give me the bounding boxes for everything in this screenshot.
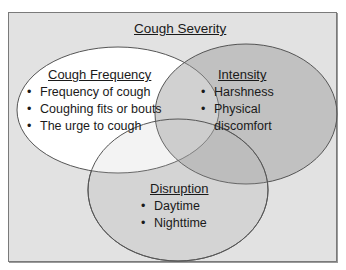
- frequency-item: Frequency of cough: [26, 84, 162, 101]
- intensity-title: Intensity: [218, 66, 274, 83]
- disruption-label: Disruption Daytime Nighttime: [140, 180, 209, 232]
- frequency-item: The urge to cough: [26, 118, 162, 135]
- intensity-item: Physical discomfort: [200, 101, 274, 135]
- frequency-label: Cough Frequency Frequency of cough Cough…: [26, 66, 162, 135]
- intensity-label: Intensity Harshness Physical discomfort: [200, 66, 274, 135]
- diagram-title: Cough Severity: [134, 20, 226, 37]
- disruption-title: Disruption: [150, 180, 209, 197]
- frequency-item: Coughing fits or bouts: [26, 101, 162, 118]
- disruption-item: Daytime: [140, 198, 209, 215]
- frequency-title: Cough Frequency: [48, 66, 162, 83]
- intensity-item: Harshness: [200, 84, 274, 101]
- disruption-item: Nighttime: [140, 215, 209, 232]
